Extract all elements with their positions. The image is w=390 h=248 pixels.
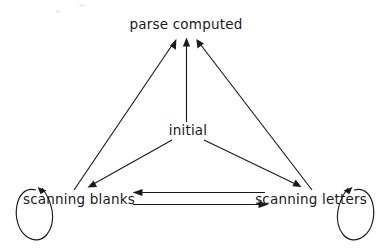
state-node-scanning-letters: scanning letters (255, 193, 367, 207)
edge-initial-to-scanning-letters (204, 140, 302, 187)
edge-scanning-blanks-to-parse-computed (74, 39, 176, 190)
edge-initial-to-scanning-blanks (88, 140, 173, 187)
state-diagram: parse computed initial scanning blanks s… (0, 0, 390, 248)
edge-scanning-letters-to-scanning-blanks (133, 189, 266, 196)
edge-scanning-letters-to-parse-computed (196, 39, 312, 190)
state-node-parse-computed: parse computed (130, 18, 243, 32)
edge-initial-to-parse-computed (183, 38, 190, 123)
edge-scanning-blanks-to-scanning-letters (133, 201, 269, 208)
state-node-initial: initial (169, 124, 208, 138)
state-node-scanning-blanks: scanning blanks (23, 193, 135, 207)
